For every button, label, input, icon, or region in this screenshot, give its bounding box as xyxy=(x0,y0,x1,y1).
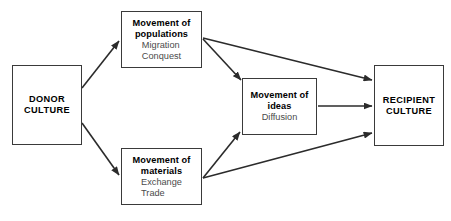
node-movement-of-materials[interactable]: Movement of materials Exchange Trade xyxy=(121,148,202,205)
node-donor-culture-title: DONOR CULTURE xyxy=(24,94,70,116)
node-sub-item: Trade xyxy=(141,188,165,199)
node-sub-item: Conquest xyxy=(142,51,181,62)
edge-populations-to-recipient xyxy=(203,38,372,80)
node-movement-of-ideas[interactable]: Movement of ideas Diffusion xyxy=(242,78,317,135)
node-movement-of-populations-sublist: Migration Conquest xyxy=(142,40,181,62)
node-donor-culture[interactable]: DONOR CULTURE xyxy=(12,65,82,145)
node-sub-item: Migration xyxy=(142,40,180,51)
edge-donor-to-materials xyxy=(82,123,119,175)
node-sub-item: Exchange xyxy=(141,177,182,188)
node-movement-of-populations-title: Movement of populations xyxy=(133,18,191,40)
node-sub-item: Diffusion xyxy=(262,112,298,123)
culture-transmission-diagram: DONOR CULTURE Movement of populations Mi… xyxy=(0,0,451,221)
node-recipient-culture-title: RECIPIENT CULTURE xyxy=(383,95,436,117)
edge-materials-to-ideas xyxy=(203,132,240,178)
edge-populations-to-ideas xyxy=(203,39,241,80)
node-movement-of-populations[interactable]: Movement of populations Migration Conque… xyxy=(121,11,202,68)
edge-donor-to-populations xyxy=(82,41,119,88)
node-movement-of-materials-title: Movement of materials xyxy=(133,155,191,177)
node-movement-of-ideas-sublist: Diffusion xyxy=(262,112,298,123)
edge-materials-to-recipient xyxy=(203,133,372,178)
node-movement-of-ideas-title: Movement of ideas xyxy=(251,90,309,112)
node-movement-of-materials-sublist: Exchange Trade xyxy=(141,177,182,199)
node-recipient-culture[interactable]: RECIPIENT CULTURE xyxy=(374,65,444,146)
